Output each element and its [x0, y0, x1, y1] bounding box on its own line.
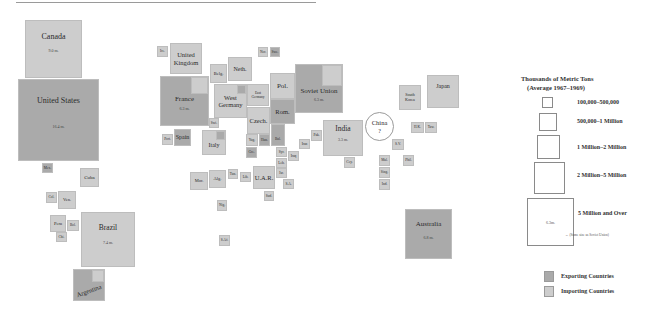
country-label: Soviet Union [300, 87, 337, 95]
country-indonesia: Ind. [379, 179, 390, 190]
country-singapore: Sing. [379, 167, 390, 178]
country-malaysia: Mal. [379, 155, 390, 166]
country-japan: Japan [427, 75, 459, 108]
country-label: Nig. [219, 203, 225, 207]
country-venezuela: Ven. [58, 191, 76, 209]
country-colombia: Col. [46, 192, 57, 203]
legend-size-3-label: 1 Million–2 Million [577, 144, 626, 150]
country-czech: Czech. [247, 107, 270, 134]
country-portugal: Port. [162, 134, 173, 145]
legend-size-4-label: 2 Million–5 Million [577, 172, 626, 178]
country-label: Belg. [214, 71, 224, 76]
country-sudan: Sud. [264, 191, 274, 201]
country-label: Cey. [346, 160, 352, 164]
country-label: Col. [49, 195, 55, 199]
country-label: Brazil [99, 224, 117, 233]
country-bolivia: Bol. [67, 220, 79, 231]
country-label: Rom. [275, 108, 289, 115]
country-spain: Spain [174, 129, 191, 146]
country-greece: Gre. [246, 147, 257, 158]
country-label: France [175, 95, 194, 103]
country-syria: Syr. [276, 147, 287, 157]
country-label: Ind. [382, 182, 388, 186]
country-cuba: Cuba [80, 168, 99, 187]
country-label: Pak. [313, 133, 319, 137]
country-label: Isr. [279, 171, 283, 175]
country-label: Chi. [59, 235, 65, 239]
country-south-vietnam: S.V. [392, 139, 404, 150]
legend-exporting-swatch [544, 271, 554, 282]
country-value: 9.0 m. [48, 49, 58, 54]
country-label: Australia [416, 220, 442, 228]
country-label: United Kingdom [171, 51, 201, 66]
legend-size-1-label: 100,000–500,000 [577, 99, 619, 105]
country-iran: Iran [299, 139, 310, 149]
country-label: Argentina [76, 283, 103, 299]
country-label: Hun. [261, 138, 268, 142]
country-iraq: Iraq [288, 151, 299, 161]
country-saudi-arabia: S.A. [283, 179, 294, 189]
country-label: Ire. [160, 49, 165, 53]
country-label: Alg. [214, 176, 222, 181]
country-value: 6.3 m. [314, 98, 324, 103]
country-label: Canada [42, 32, 66, 41]
country-switzerland: Swi. [209, 118, 219, 128]
legend-size-5: 6.3m. [527, 198, 574, 246]
country-israel: Isr. [276, 168, 287, 178]
country-peru: Peru [50, 215, 66, 232]
country-pakistan: Pak. [311, 130, 322, 141]
country-ceylon: Cey. [344, 157, 355, 168]
country-sweden: Swe. [270, 47, 280, 57]
country-algeria: Alg. [209, 170, 226, 188]
soviet-union-import-portion [322, 65, 342, 86]
country-ireland: Ire. [157, 46, 168, 57]
country-tunisia: Tun. [228, 169, 238, 179]
legend-size-3 [537, 135, 560, 159]
country-uar: U.A.R. [253, 166, 275, 189]
country-value: 7.4 m. [103, 241, 113, 246]
country-label: Leb. [278, 161, 284, 165]
country-label: Ven. [63, 197, 71, 202]
legend-size-4 [534, 162, 565, 194]
country-soviet-union: Soviet Union 6.3 m. [295, 64, 343, 113]
west-germany-export-portion [237, 85, 246, 94]
country-yugoslavia: Yug. [246, 134, 258, 146]
country-label: S.A. [285, 182, 291, 186]
country-united-kingdom: United Kingdom [170, 43, 202, 74]
legend-size-5-note: ← (Same size as Soviet Union) [565, 233, 609, 237]
country-france: France 6.3 m. [160, 76, 209, 126]
top-rule [16, 2, 316, 3]
country-value: 3.3 m. [338, 138, 348, 143]
country-value: 6.3 m. [179, 107, 189, 112]
country-label: United States [37, 96, 80, 105]
legend-size-1 [542, 97, 553, 108]
country-label: Czech. [250, 117, 268, 124]
country-south-korea: South Korea [399, 85, 421, 110]
country-label: West Germany [216, 94, 246, 109]
country-bulgaria: Bul. [271, 124, 285, 146]
legend-importing-swatch [544, 286, 554, 297]
country-south-africa: S.Af. [219, 235, 230, 246]
legend-size-5-label: 5 Million and Over [578, 210, 627, 216]
country-label: Iraq [291, 154, 297, 158]
country-united-states: United States 16.4 m. [18, 79, 99, 161]
country-label: Yug. [249, 138, 256, 142]
country-label: Mal. [381, 158, 388, 162]
country-label: Cuba [84, 175, 95, 181]
country-lebanon: Leb. [276, 158, 287, 168]
country-label: Swe. [272, 50, 279, 54]
country-label: Tun. [230, 172, 236, 176]
country-nigeria: Nig. [217, 200, 227, 211]
country-label: Syr. [279, 150, 285, 154]
country-label: East Germany [249, 91, 267, 99]
country-label: India [335, 125, 350, 134]
country-label: Bol. [70, 223, 76, 227]
country-china: China ? [365, 112, 394, 141]
country-australia: Australia 6.8 m. [405, 209, 452, 259]
country-label: Neth. [233, 66, 246, 73]
country-india: India 3.3 m. [323, 120, 363, 156]
country-label: Japan [436, 83, 450, 90]
country-morocco: Mor. [190, 172, 208, 190]
legend-size-2 [539, 113, 557, 131]
country-label: China [372, 119, 388, 126]
